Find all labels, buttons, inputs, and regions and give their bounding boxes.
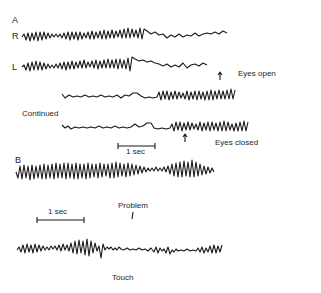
trace-a-r (22, 28, 227, 41)
trace-b-2 (17, 239, 222, 258)
eeg-traces (0, 0, 321, 293)
scale-bar-b (37, 217, 84, 223)
trace-a-l (22, 57, 207, 71)
scale-bar-a (118, 143, 155, 149)
trace-a-continued-2 (62, 121, 248, 131)
problem-marker (132, 212, 133, 219)
trace-a-continued-1 (62, 89, 235, 100)
trace-b-1 (16, 160, 214, 180)
eyes-closed-arrow (183, 134, 187, 142)
eyes-open-arrow (218, 72, 222, 80)
